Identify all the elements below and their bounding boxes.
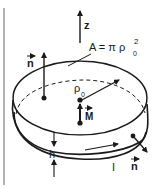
normal-top-foot-dot xyxy=(42,96,47,101)
current-label: I xyxy=(112,161,115,173)
z-axis-label: z xyxy=(84,19,90,31)
height-label: h xyxy=(49,148,55,160)
radius-label: ρ xyxy=(74,82,80,94)
current-arrow xyxy=(85,144,118,150)
center-dot xyxy=(77,97,82,102)
radius-label-subscript: 0 xyxy=(81,91,85,98)
normal-side-label: n xyxy=(131,160,138,172)
area-label: A = π ρ xyxy=(89,41,125,53)
area-label-superscript: 2 xyxy=(134,37,139,46)
moment-label: M xyxy=(85,111,93,122)
normal-top-label: n xyxy=(27,57,34,69)
area-leader-line xyxy=(68,54,91,66)
area-label-subscript: 0 xyxy=(133,50,137,57)
disc-diagram: z A = π ρ 0 2 n ρ 0 M h I n xyxy=(0,0,158,188)
moment-base-dot xyxy=(77,120,82,125)
radius-arrow xyxy=(80,80,119,101)
